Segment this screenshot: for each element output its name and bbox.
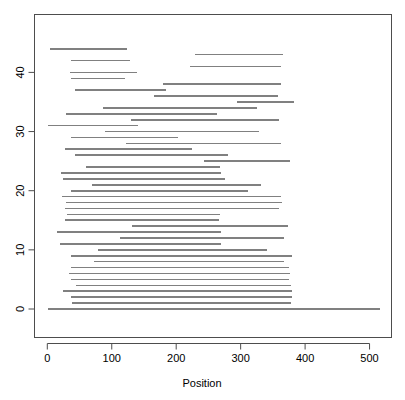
y-axis-tick-label: 30	[14, 125, 26, 137]
y-axis-tick-label: 20	[14, 185, 26, 197]
y-axis-tick-label: 0	[14, 306, 26, 312]
segment-plot-figure: 010203040 0100200300400500 Position	[0, 0, 405, 400]
figure-background	[0, 0, 405, 400]
x-axis-tick-label: 0	[44, 352, 50, 364]
x-axis-tick-label: 400	[296, 352, 314, 364]
plot-canvas: 010203040 0100200300400500 Position	[0, 0, 405, 400]
y-axis-tick-label: 10	[14, 244, 26, 256]
x-axis-tick-label: 500	[360, 352, 378, 364]
x-axis-tick-label: 300	[231, 352, 249, 364]
x-axis-title: Position	[182, 377, 221, 389]
x-axis-tick-label: 100	[103, 352, 121, 364]
y-axis-tick-label: 40	[14, 66, 26, 78]
x-axis-tick-label: 200	[167, 352, 185, 364]
